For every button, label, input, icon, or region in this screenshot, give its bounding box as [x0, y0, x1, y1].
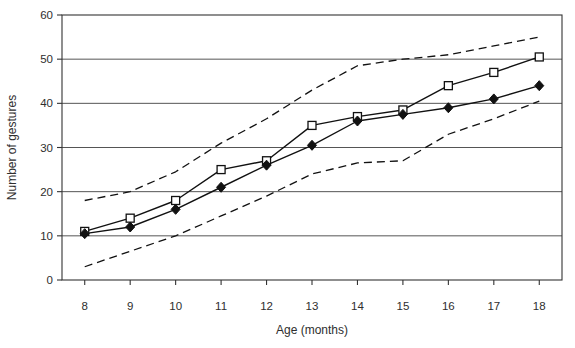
y-tick-label-30: 30	[40, 142, 53, 154]
filled-diamond-line-path	[85, 86, 540, 234]
y-tick-label-60: 60	[40, 9, 53, 21]
x-tick-label-9: 9	[127, 300, 133, 312]
axis-tick-labels: 891011121314151617180102030405060	[40, 9, 545, 312]
gestures-line-chart: 891011121314151617180102030405060 Age (m…	[0, 0, 575, 348]
x-tick-label-13: 13	[306, 300, 319, 312]
y-axis-title: Number of gestures	[5, 95, 19, 200]
marker-open-square-16	[444, 82, 452, 90]
y-tick-label-10: 10	[40, 230, 53, 242]
x-tick-label-10: 10	[169, 300, 182, 312]
marker-open-square-11	[217, 166, 225, 174]
chart-page: 891011121314151617180102030405060 Age (m…	[0, 0, 575, 348]
y-tick-label-50: 50	[40, 53, 53, 65]
x-tick-label-18: 18	[533, 300, 546, 312]
x-tick-label-16: 16	[442, 300, 455, 312]
marker-open-square-18	[535, 53, 543, 61]
y-tick-label-0: 0	[47, 274, 53, 286]
marker-filled-diamond-11	[217, 182, 226, 192]
marker-filled-diamond-13	[308, 140, 317, 150]
axis-ticks	[57, 15, 539, 285]
marker-open-square-9	[126, 214, 134, 222]
x-tick-label-12: 12	[260, 300, 273, 312]
marker-filled-diamond-9	[126, 222, 135, 232]
upper-dashed-band-path	[85, 37, 540, 200]
marker-filled-diamond-16	[444, 103, 453, 113]
x-tick-label-14: 14	[351, 300, 364, 312]
x-tick-label-15: 15	[397, 300, 410, 312]
dashed-band-lines	[85, 37, 540, 267]
marker-filled-diamond-18	[535, 81, 544, 91]
marker-filled-diamond-17	[489, 94, 498, 104]
x-tick-label-17: 17	[487, 300, 500, 312]
marker-open-square-17	[490, 68, 498, 76]
x-axis-title: Age (months)	[276, 323, 348, 337]
x-tick-label-8: 8	[82, 300, 88, 312]
y-tick-label-20: 20	[40, 186, 53, 198]
marker-open-square-10	[172, 197, 180, 205]
marker-filled-diamond-10	[171, 204, 180, 214]
marker-open-square-13	[308, 121, 316, 129]
y-tick-label-40: 40	[40, 97, 53, 109]
x-tick-label-11: 11	[215, 300, 227, 312]
